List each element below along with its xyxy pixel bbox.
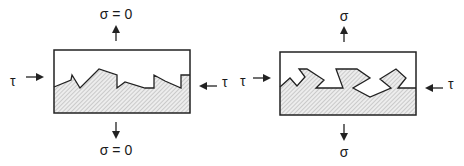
- shear-stress-left-label: τ: [240, 73, 246, 89]
- shear-stress-right-label: τ: [222, 74, 228, 90]
- lower-block-right: [280, 69, 416, 115]
- shear-stress-left-label: τ: [10, 73, 16, 89]
- normal-stress-bottom-label: σ = 0: [100, 142, 133, 158]
- normal-stress-bottom-label: σ: [340, 144, 349, 160]
- shear-stress-right-label: τ: [448, 76, 454, 92]
- panel-right: σ τ τ σ: [240, 8, 454, 160]
- diagram-canvas: σ = 0 τ τ σ = 0 σ τ τ σ: [0, 0, 464, 166]
- lower-block-left: [54, 69, 190, 113]
- normal-stress-top-label: σ: [340, 8, 349, 24]
- panel-left: σ = 0 τ τ σ = 0: [10, 6, 228, 158]
- normal-stress-top-label: σ = 0: [100, 6, 133, 22]
